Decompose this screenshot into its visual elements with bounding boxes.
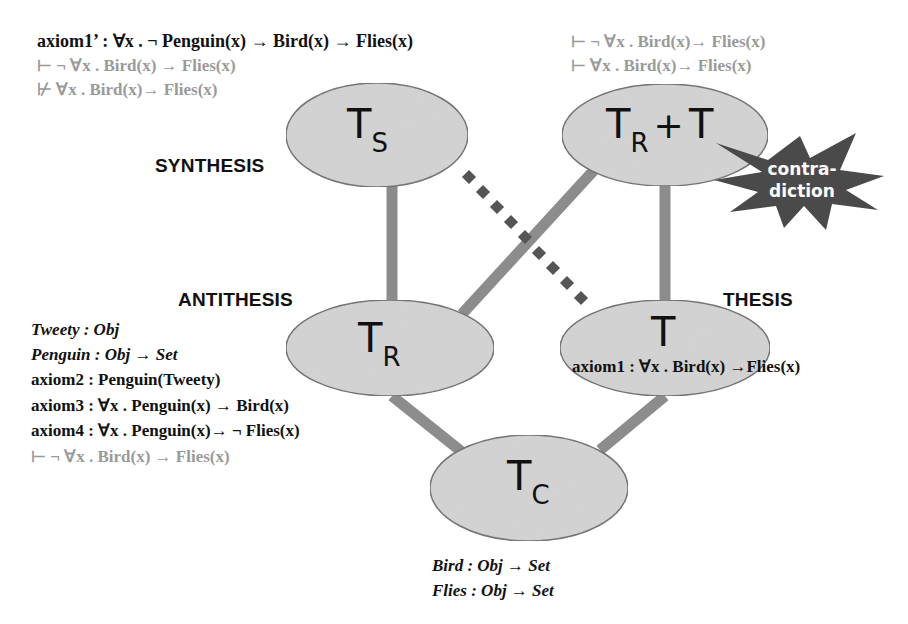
node-ts-label: TS [347, 104, 388, 144]
node-ts-main: T [347, 101, 371, 147]
node-tr-plus-t-label: TR + T [606, 104, 713, 144]
node-t-main: T [651, 309, 675, 355]
formula-tweety-type: Tweety : Obj [31, 320, 119, 340]
node-trt-main: T [606, 101, 630, 147]
node-tc-label: TC [507, 456, 550, 496]
node-tr-main: T [358, 315, 382, 361]
role-label-antithesis: ANTITHESIS [178, 289, 293, 311]
node-tr-sub: R [382, 342, 400, 372]
formula-penguin-type: Penguin : Obj → Set [31, 345, 177, 365]
formula-combined-derives-not: ⊢ ¬ ∀x . Bird(x)→ Flies(x) [571, 32, 765, 52]
node-trt-plus: + [654, 105, 684, 146]
contradiction-line-1: contra- [757, 158, 847, 180]
role-label-synthesis: SYNTHESIS [155, 155, 265, 177]
formula-axiom1: axiom1 : ∀x . Bird(x) →Flies(x) [572, 357, 800, 377]
node-tr-label: TR [358, 318, 401, 358]
formula-axiom2: axiom2 : Penguin(Tweety) [31, 370, 221, 390]
formula-axiom1-prime: axiom1’ : ∀x . ¬ Penguin(x) → Bird(x) → … [37, 31, 413, 51]
formula-synthesis-not-derives: ⊬ ∀x . Bird(x)→ Flies(x) [37, 80, 217, 100]
node-tc-main: T [507, 453, 531, 499]
node-trt-sub: R [630, 128, 648, 158]
node-t-label: T [651, 312, 675, 352]
contradiction-label: contra- diction [757, 158, 847, 202]
node-tc-sub: C [531, 480, 549, 510]
formula-flies-type: Flies : Obj → Set [432, 581, 554, 601]
edge-tr-tc [392, 396, 462, 452]
formula-axiom4: axiom4 : ∀x . Penguin(x)→ ¬ Flies(x) [31, 421, 300, 441]
contradiction-line-2: diction [757, 180, 847, 202]
node-ts-sub: S [371, 128, 388, 158]
formula-synthesis-derives-not: ⊢ ¬ ∀x . Bird(x) → Flies(x) [37, 56, 236, 76]
formula-antithesis-derives-not: ⊢ ¬ ∀x . Bird(x) → Flies(x) [31, 447, 230, 467]
node-trt-second: T [689, 101, 713, 147]
role-label-thesis: THESIS [723, 289, 793, 311]
formula-bird-type: Bird : Obj → Set [432, 556, 550, 576]
edge-t-tc [600, 396, 665, 450]
formula-axiom3: axiom3 : ∀x . Penguin(x) → Bird(x) [31, 396, 289, 416]
formula-combined-derives: ⊢ ∀x . Bird(x)→ Flies(x) [571, 56, 751, 76]
